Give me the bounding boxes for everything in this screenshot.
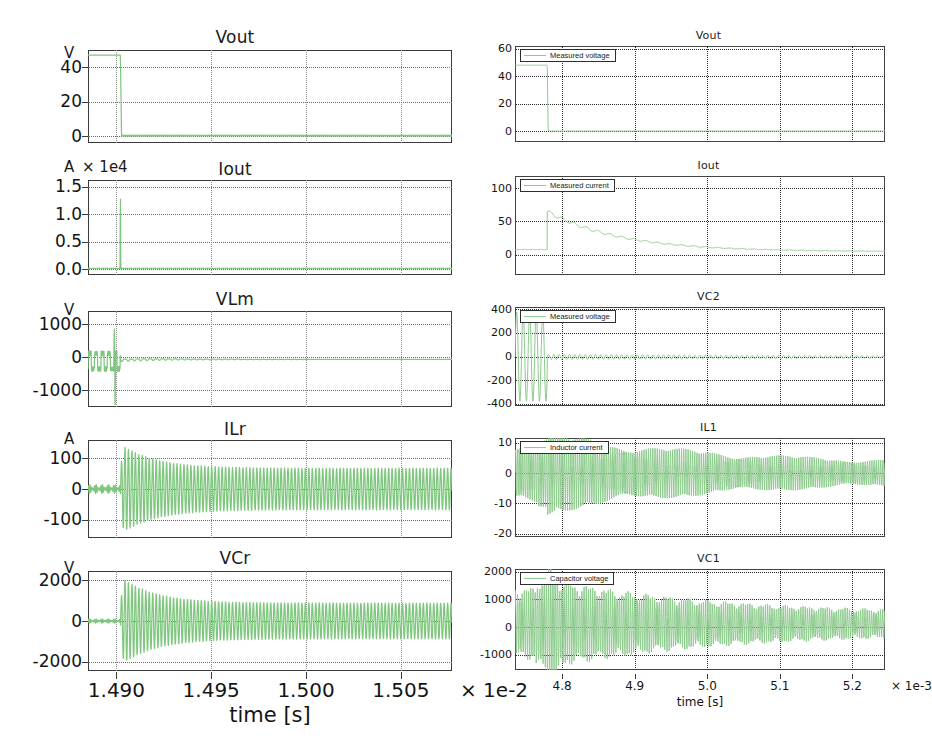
legend-label: Measured current <box>550 182 609 190</box>
x-axis-tick-label: 1.495 <box>166 680 256 700</box>
x-axis-tick-label: 1.500 <box>261 680 351 700</box>
plot-legend: Measured current <box>520 179 615 192</box>
waveform-trace <box>0 420 470 545</box>
right-x-axis: time [s] 4.84.95.05.15.2× 1e-3 <box>470 674 927 729</box>
waveform-trace <box>0 28 470 150</box>
x-axis-label: time [s] <box>88 704 452 726</box>
legend-swatch-icon <box>524 185 546 186</box>
right-column: Vout Measured voltage 6040200 Iout Measu… <box>470 0 927 753</box>
left-column: Vout V 40200 Iout A × 1e4 1.51.00.50.0 V… <box>0 0 470 753</box>
plot-legend: Measured voltage <box>520 310 616 323</box>
legend-label: Capacitor voltage <box>550 575 608 583</box>
legend-label: Inductor current <box>550 444 603 452</box>
plot-left-ilr: ILr A 1000-100 <box>0 420 470 545</box>
plot-left-iout: Iout A × 1e4 1.51.00.50.0 <box>0 160 470 285</box>
x-axis-tick-label: 5.2 <box>807 680 897 692</box>
legend-swatch-icon <box>524 316 546 317</box>
legend-label: Measured voltage <box>550 52 610 60</box>
waveform-trace <box>470 30 927 150</box>
legend-label: Measured voltage <box>550 313 610 321</box>
legend-swatch-icon <box>524 578 546 579</box>
plot-right-il1: IL1 Inductor current 100-10-20 <box>470 422 927 547</box>
plot-right-vc2: VC2 Measured voltage 4002000-200-400 <box>470 291 927 416</box>
plot-legend: Inductor current <box>520 441 609 454</box>
legend-swatch-icon <box>524 55 546 56</box>
plot-left-vcr: VCr V 20000-2000 <box>0 549 470 674</box>
plot-right-vc1: VC1 Capacitor voltage 200010000-1000 <box>470 553 927 678</box>
x-axis-tick-label: 1.490 <box>71 680 161 700</box>
plot-right-vout: Vout Measured voltage 6040200 <box>470 30 927 150</box>
waveform-trace <box>0 160 470 285</box>
waveform-trace <box>0 549 470 674</box>
x-axis-tick-label: 1.505 <box>356 680 446 700</box>
x-axis-label: time [s] <box>515 696 885 709</box>
plot-legend: Capacitor voltage <box>520 572 614 585</box>
waveform-trace <box>0 290 470 415</box>
plot-legend: Measured voltage <box>520 49 616 62</box>
plot-right-iout: Iout Measured current 100500 <box>470 160 927 285</box>
legend-swatch-icon <box>524 447 546 448</box>
x-axis-multiplier-label: × 1e-3 <box>891 680 932 692</box>
left-x-axis: time [s] 1.4901.4951.5001.505× 1e-2 <box>0 672 470 732</box>
plot-left-vlm: VLm V 10000-1000 <box>0 290 470 415</box>
plot-left-vout: Vout V 40200 <box>0 28 470 150</box>
